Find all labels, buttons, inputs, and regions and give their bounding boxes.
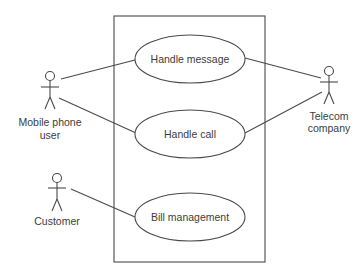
- association-telecom-handle-message: [245, 58, 321, 78]
- actor-label: Telecom: [309, 110, 348, 122]
- association-mobile-user-handle-message: [61, 60, 135, 79]
- use-case-label: Handle message: [151, 53, 230, 65]
- use-case-label: Bill management: [151, 211, 229, 223]
- use-case-bill-management: Bill management: [135, 193, 245, 241]
- use-case-diagram: Handle message Handle call Bill manageme…: [0, 0, 364, 274]
- use-case-label: Handle call: [164, 128, 216, 140]
- actor-label: company: [308, 122, 351, 134]
- stick-figure-icon: [48, 174, 66, 212]
- actor-label: Mobile phone: [18, 116, 81, 128]
- use-case-handle-message: Handle message: [135, 35, 245, 83]
- actor-label: Customer: [34, 215, 80, 227]
- use-case-handle-call: Handle call: [135, 110, 245, 158]
- association-customer-bill-management: [71, 189, 135, 217]
- actor-mobile-phone-user: Mobile phone user: [18, 72, 81, 142]
- actor-label: user: [40, 129, 61, 141]
- stick-figure-icon: [320, 67, 338, 105]
- actor-customer: Customer: [34, 174, 80, 228]
- stick-figure-icon: [41, 72, 59, 110]
